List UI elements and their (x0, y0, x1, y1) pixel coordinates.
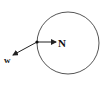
circle-track (37, 12, 99, 74)
normal-force-label: N (58, 37, 66, 49)
weight-label: w (4, 55, 11, 65)
weight-arrow (13, 42, 37, 55)
free-body-diagram: N w (0, 0, 102, 91)
contact-point (35, 40, 38, 43)
